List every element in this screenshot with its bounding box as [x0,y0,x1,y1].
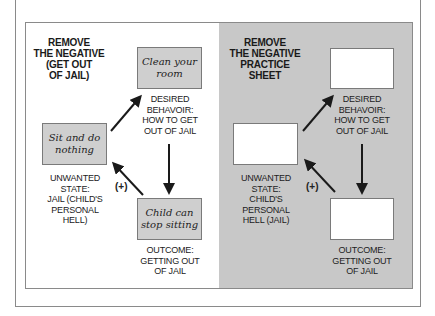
box-text-line: stop sitting [141,219,198,231]
label-line: HOW TO GET [130,115,210,126]
label-line: BEHAVOIR: [322,105,402,116]
label-line: OUT OF JAIL [130,126,210,137]
label-line: JAIL (CHILD'S [35,194,115,205]
desired-behavior-label: DESIRED BEHAVOIR: HOW TO GET OUT OF JAIL [322,94,402,136]
title-line: PRACTICE [220,59,310,70]
outcome-label: OUTCOME: GETTING OUT OF JAIL [322,245,402,277]
desired-behavior-label: DESIRED BEHAVOIR: HOW TO GET OUT OF JAIL [130,94,210,136]
left-panel-title: REMOVE THE NEGATIVE (GET OUT OF JAIL) [24,37,114,81]
box-text-line: Sit and do [49,132,101,144]
outcome-label: OUTCOME: GETTING OUT OF JAIL [130,245,210,277]
title-line: REMOVE [220,37,310,48]
label-line: HELL) [35,215,115,226]
positive-reinforcement-label: (+) [115,181,128,192]
label-line: DESIRED [322,94,402,105]
label-line: OUTCOME: [130,245,210,256]
box-text-line: nothing [49,144,101,156]
label-line: STATE: [226,184,306,195]
title-line: REMOVE [24,37,114,48]
title-line: SHEET [220,70,310,81]
label-line: PERSONAL [35,205,115,216]
box-text-line: Child can [141,207,198,219]
label-line: HOW TO GET [322,115,402,126]
label-line: STATE: [35,184,115,195]
title-line: THE NEGATIVE [24,48,114,59]
desired-behavior-box: Clean your room [137,47,202,89]
outcome-blank-box[interactable] [330,198,394,240]
label-line: PERSONAL [226,205,306,216]
label-line: DESIRED [130,94,210,105]
label-line: OF JAIL [130,266,210,277]
label-line: OUT OF JAIL [322,126,402,137]
label-line: OUTCOME: [322,245,402,256]
unwanted-state-label: UNWANTED STATE: JAIL (CHILD'S PERSONAL H… [35,173,115,226]
box-text-line: room [142,68,197,80]
unwanted-state-box: Sit and do nothing [42,123,107,165]
positive-reinforcement-label: (+) [306,181,319,192]
label-line: OF JAIL [322,266,402,277]
title-line: THE NEGATIVE [220,48,310,59]
label-line: UNWANTED [226,173,306,184]
label-line: HELL (JAIL) [226,215,306,226]
label-line: GETTING OUT [130,256,210,267]
title-line: (GET OUT [24,59,114,70]
box-text-line: Clean your [142,56,197,68]
label-line: GETTING OUT [322,256,402,267]
label-line: UNWANTED [35,173,115,184]
label-line: CHILD'S [226,194,306,205]
desired-behavior-blank-box[interactable] [330,48,394,89]
right-panel-title: REMOVE THE NEGATIVE PRACTICE SHEET [220,37,310,81]
outcome-box: Child can stop sitting [137,198,202,240]
unwanted-state-blank-box[interactable] [233,123,298,165]
label-line: BEHAVOIR: [130,105,210,116]
unwanted-state-label: UNWANTED STATE: CHILD'S PERSONAL HELL (J… [226,173,306,226]
title-line: OF JAIL) [24,70,114,81]
